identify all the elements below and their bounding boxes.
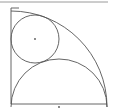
semicircle-center-dot: [58, 106, 60, 108]
geometry-figure: [0, 0, 113, 112]
small-circle-center-dot: [34, 38, 36, 40]
semicircle-arc: [11, 59, 107, 107]
center-points: [34, 38, 60, 108]
